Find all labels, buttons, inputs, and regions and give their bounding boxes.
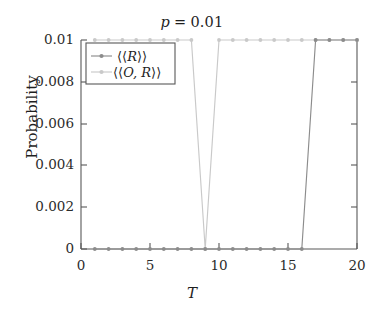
x-tick-label-15: 15 — [268, 259, 308, 273]
data-point — [134, 247, 138, 251]
data-point — [107, 247, 111, 251]
x-tick-label-20: 20 — [337, 259, 377, 273]
data-point — [107, 38, 111, 42]
data-point — [93, 38, 97, 42]
x-tick-label-10: 10 — [199, 259, 239, 273]
data-point — [328, 38, 332, 42]
data-point — [190, 247, 194, 251]
legend-var-O-R: O, R — [123, 65, 151, 80]
data-point — [121, 38, 125, 42]
chart-figure: p=0.01 — [0, 0, 384, 314]
data-point — [245, 38, 249, 42]
data-point — [259, 38, 263, 42]
legend-bra-O-R: ⟨⟨ — [113, 65, 123, 80]
legend-dot-R — [99, 54, 103, 58]
data-point — [134, 38, 138, 42]
legend-ket-O-R: ⟩⟩ — [151, 65, 161, 80]
x-axis-label: T — [0, 284, 384, 302]
data-point — [272, 38, 276, 42]
data-point — [341, 38, 345, 42]
legend-label-R: ⟨⟨R⟩⟩ — [117, 50, 147, 63]
data-point — [355, 38, 359, 42]
data-point — [231, 247, 235, 251]
data-point — [300, 247, 304, 251]
data-point — [162, 247, 166, 251]
data-point — [259, 247, 263, 251]
y-tick-label-0: 0 — [18, 242, 74, 256]
data-point — [245, 247, 249, 251]
data-point — [162, 38, 166, 42]
legend-ket-R: ⟩⟩ — [137, 49, 147, 64]
data-point — [217, 38, 221, 42]
legend-var-R: R — [127, 49, 137, 64]
data-point — [203, 247, 207, 251]
data-point — [217, 247, 221, 251]
data-point — [190, 38, 194, 42]
y-axis-label: Probability — [23, 22, 41, 212]
data-point — [176, 247, 180, 251]
data-point — [176, 38, 180, 42]
data-point — [272, 247, 276, 251]
data-point — [314, 38, 318, 42]
data-point — [148, 247, 152, 251]
data-point — [300, 38, 304, 42]
y-tick-marks-right — [351, 82, 357, 207]
data-point — [93, 247, 97, 251]
legend-bra-R: ⟨⟨ — [117, 49, 127, 64]
data-point — [231, 38, 235, 42]
data-point — [121, 247, 125, 251]
data-point — [148, 38, 152, 42]
x-tick-label-0: 0 — [61, 259, 101, 273]
x-tick-label-5: 5 — [130, 259, 170, 273]
legend-dot-O-R — [99, 70, 103, 74]
legend-label-O-R: ⟨⟨O, R⟩⟩ — [113, 66, 161, 79]
data-point — [286, 247, 290, 251]
data-point — [286, 38, 290, 42]
